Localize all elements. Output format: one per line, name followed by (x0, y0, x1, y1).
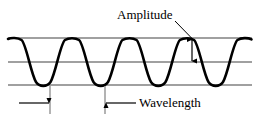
wavelength-label: Wavelength (139, 96, 201, 109)
wavelength-tick-marks (50, 86, 105, 114)
guide-lines (8, 38, 252, 85)
amplitude-label: Amplitude (117, 8, 173, 21)
wave-diagram: Amplitude Wavelength (0, 0, 261, 125)
